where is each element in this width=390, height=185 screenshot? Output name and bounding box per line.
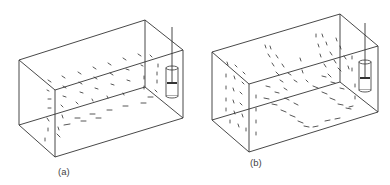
velocity-vector: [330, 52, 332, 55]
velocity-vector: [294, 80, 297, 82]
velocity-vector: [270, 46, 271, 49]
velocity-vector: [48, 80, 51, 82]
velocity-vector: [313, 126, 318, 127]
velocity-vector: [150, 55, 152, 57]
velocity-vector: [338, 68, 341, 71]
velocity-vector: [348, 66, 349, 69]
velocity-vector: [110, 73, 113, 75]
tank-edge: [340, 14, 378, 46]
velocity-vector: [324, 64, 326, 67]
velocity-vectors-b: [226, 34, 355, 135]
panel-b-label: (b): [250, 157, 262, 168]
velocity-vector: [349, 106, 353, 107]
velocity-vector: [64, 124, 70, 125]
velocity-vector: [242, 82, 244, 84]
velocity-vector: [290, 115, 295, 117]
velocity-vector: [80, 92, 83, 93]
velocity-vector: [47, 118, 49, 121]
velocity-vector: [338, 104, 343, 105]
tank-edge: [145, 20, 183, 50]
velocity-vector: [264, 98, 269, 99]
velocity-vector: [331, 82, 335, 83]
velocity-vector: [320, 54, 321, 57]
tank-edge: [212, 82, 340, 120]
tank-edge: [55, 118, 183, 157]
velocity-vector: [141, 65, 143, 66]
velocity-vector: [78, 72, 81, 74]
velocity-vector: [57, 134, 60, 137]
velocity-vector: [334, 60, 336, 63]
velocity-vector: [235, 65, 237, 67]
velocity-vector: [284, 88, 287, 90]
probe-cylinder-bottom: [166, 96, 178, 98]
velocity-vectors-a: [45, 54, 158, 141]
velocity-vector: [275, 92, 279, 93]
panel-b: [212, 14, 378, 152]
velocity-vector: [282, 64, 284, 67]
velocity-vector: [294, 103, 298, 105]
velocity-vector: [233, 88, 234, 91]
velocity-vector: [95, 88, 98, 89]
tank-edge: [19, 60, 55, 90]
velocity-vector: [322, 34, 323, 37]
velocity-vector: [322, 92, 327, 94]
velocity-vector: [344, 56, 346, 59]
velocity-vector: [306, 80, 308, 82]
velocity-vector: [346, 108, 351, 109]
stirrer-probe-b: [359, 23, 371, 92]
velocity-vector: [93, 67, 96, 69]
velocity-vector: [266, 86, 270, 87]
velocity-vector: [111, 84, 114, 85]
velocity-vector: [304, 126, 309, 127]
figure-canvas: [0, 0, 390, 185]
velocity-vector: [318, 44, 319, 47]
velocity-vector: [123, 58, 126, 60]
velocity-vector: [47, 90, 49, 91]
velocity-vector: [155, 90, 157, 92]
velocity-vector: [138, 54, 141, 56]
velocity-vector: [276, 55, 278, 58]
velocity-vector: [61, 105, 63, 107]
velocity-vector: [272, 104, 277, 105]
velocity-vector: [58, 127, 59, 130]
velocity-vector: [63, 96, 66, 97]
probe-cylinder-bottom: [359, 90, 371, 92]
panel-a: [19, 20, 183, 157]
velocity-vector: [62, 76, 65, 78]
velocity-vector: [322, 76, 326, 77]
panel-a-label: (a): [58, 166, 70, 177]
tank-edge: [55, 50, 183, 90]
velocity-vector: [107, 96, 108, 98]
velocity-vector: [340, 88, 344, 89]
velocity-vector: [288, 73, 291, 75]
velocity-vector: [62, 115, 63, 118]
velocity-vector: [126, 69, 129, 70]
tank-edge: [19, 125, 55, 157]
velocity-vector: [234, 76, 235, 79]
velocity-vector: [240, 103, 242, 105]
velocity-vector: [268, 54, 270, 57]
velocity-vector: [325, 120, 330, 121]
velocity-vector: [302, 70, 303, 73]
velocity-vector: [265, 45, 266, 48]
velocity-vector: [328, 74, 331, 77]
velocity-vector: [76, 102, 78, 104]
velocity-vector: [281, 110, 286, 112]
tank-edge: [212, 52, 249, 84]
velocity-vector: [127, 80, 130, 81]
velocity-vector: [300, 58, 301, 61]
velocity-vector: [238, 124, 239, 127]
velocity-vector: [240, 92, 242, 94]
velocity-vector: [330, 98, 335, 100]
tank-edge: [212, 120, 249, 152]
velocity-vector: [242, 114, 243, 117]
velocity-vector: [336, 38, 337, 41]
velocity-vector: [108, 63, 111, 65]
tank-edge: [19, 20, 145, 60]
velocity-vector: [272, 63, 274, 66]
tank-edge: [249, 112, 378, 152]
velocity-vector: [298, 121, 303, 123]
velocity-vector: [335, 118, 340, 119]
tank-edge: [212, 14, 340, 52]
velocity-vector: [92, 99, 93, 101]
